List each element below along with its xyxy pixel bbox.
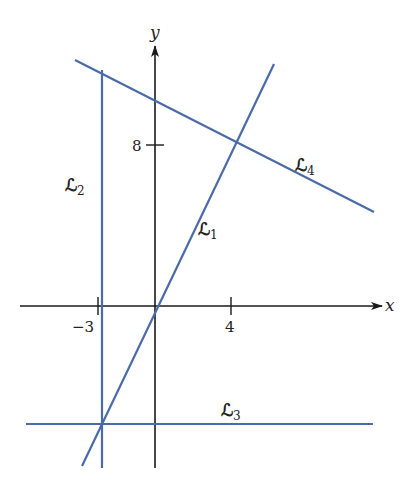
x-axis-label: x [385, 295, 395, 315]
label-L2: ℒ2 [65, 175, 85, 198]
label-L4: ℒ4 [295, 155, 315, 178]
line-L1 [82, 64, 274, 466]
x-tick-label-4: 4 [225, 318, 235, 336]
label-L1: ℒ1 [198, 219, 218, 242]
y-axis-label: y [149, 22, 160, 42]
y-tick-label-8: 8 [132, 137, 142, 155]
coordinate-diagram: y x −3 4 8 ℒ1 ℒ2 ℒ3 ℒ4 [0, 0, 408, 488]
line-L4 [75, 60, 374, 212]
x-tick-label-neg3: −3 [72, 318, 94, 336]
label-L3: ℒ3 [221, 400, 241, 423]
